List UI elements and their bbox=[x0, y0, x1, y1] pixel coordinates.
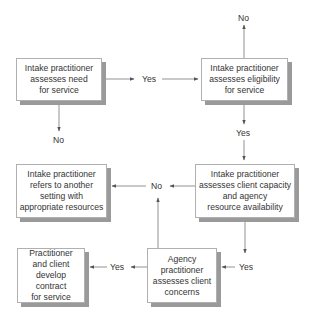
node-assess-concerns: Agency practitioner assesses client conc… bbox=[147, 248, 217, 303]
label-eligibility-no: No bbox=[238, 13, 249, 23]
node-assess-capacity: Intake practitioner assesses client capa… bbox=[195, 164, 295, 218]
node-refer-elsewhere: Intake practitioner refers to another se… bbox=[16, 164, 107, 218]
node-assess-capacity-text: Intake practitioner assesses client capa… bbox=[199, 169, 291, 213]
node-assess-eligibility-text: Intake practitioner assesses eligibility… bbox=[209, 63, 280, 96]
node-assess-concerns-text: Agency practitioner assesses client conc… bbox=[153, 254, 211, 298]
node-assess-need: Intake practitioner assesses need for se… bbox=[16, 58, 102, 101]
node-assess-eligibility: Intake practitioner assesses eligibility… bbox=[201, 58, 288, 101]
node-assess-need-text: Intake practitioner assesses need for se… bbox=[25, 63, 93, 96]
node-develop-contract: Practitioner and client develop contract… bbox=[17, 248, 85, 303]
node-refer-elsewhere-text: Intake practitioner refers to another se… bbox=[20, 169, 104, 213]
label-capacity-no: No bbox=[151, 181, 162, 191]
node-develop-contract-text: Practitioner and client develop contract… bbox=[20, 248, 82, 303]
label-need-yes: Yes bbox=[142, 74, 156, 84]
label-eligibility-yes: Yes bbox=[236, 128, 250, 138]
label-need-no: No bbox=[53, 135, 64, 145]
label-concerns-yes: Yes bbox=[110, 262, 124, 272]
label-capacity-yes: Yes bbox=[239, 262, 253, 272]
flowchart-canvas: Intake practitioner assesses need for se… bbox=[0, 0, 310, 319]
